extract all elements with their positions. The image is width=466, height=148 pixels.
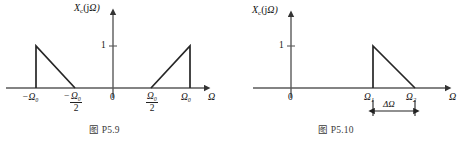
tick-label-minus-omega0-half: − Ω₀ 2 (70, 92, 82, 114)
tick-omega1-subscript: 1 (371, 96, 374, 103)
triangle-passband (373, 46, 415, 88)
triangle-negative-band (36, 46, 75, 88)
tick-omega2-base: Ω (406, 92, 413, 102)
fraction-numerator-left: Ω₀ (70, 92, 82, 103)
tick-label-omega2: Ω2 (406, 93, 416, 104)
figure-caption-right: 图 P5.10 (318, 122, 354, 136)
origin-label-left: 0 (110, 93, 115, 103)
y-axis-label-arg-left: (j (83, 2, 89, 13)
y-axis-label-right: Xc(jΩ) (252, 5, 278, 17)
y-axis-label-arg-right: (j (261, 4, 267, 15)
amplitude-label-right: 1 (279, 41, 284, 51)
fraction-numerator-right: Ω₀ (146, 92, 158, 103)
minus-sign-left: − (64, 92, 69, 102)
tick-label-omega1: Ω1 (364, 93, 374, 104)
figure-page: Xc(jΩ) 1 0 −Ω₀ − Ω₀ 2 Ω₀ 2 Ω₀ Ω 图 P5.9 (0, 0, 466, 148)
figure-p5-10: Xc(jΩ) 1 0 Ω1 Ω2 ΔΩ Ω 图 P5.10 (233, 0, 466, 148)
x-axis-label-right: Ω (449, 92, 456, 102)
figure-p5-9: Xc(jΩ) 1 0 −Ω₀ − Ω₀ 2 Ω₀ 2 Ω₀ Ω 图 P5.9 (0, 0, 233, 148)
x-axis-label-left: Ω (208, 92, 215, 102)
tick-label-omega0-half: Ω₀ 2 (146, 92, 158, 114)
y-axis-label-left: Xc(jΩ) (74, 3, 100, 15)
span-label-delta-omega: ΔΩ (383, 100, 395, 109)
tick-omega2-subscript: 2 (413, 96, 416, 103)
tick-label-omega0: Ω₀ (181, 93, 191, 103)
triangle-positive-band (151, 46, 190, 88)
tick-omega1-base: Ω (364, 92, 371, 102)
fraction-denominator-right: 2 (146, 103, 158, 113)
amplitude-label-left: 1 (101, 41, 106, 51)
figure-caption-left: 图 P5.9 (89, 122, 120, 136)
fraction-denominator-left: 2 (70, 103, 82, 113)
tick-label-minus-omega0: −Ω₀ (22, 93, 39, 103)
origin-label-right: 0 (288, 93, 293, 103)
